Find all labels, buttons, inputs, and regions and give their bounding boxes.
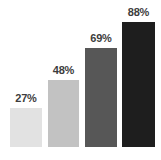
bar-rect-3[interactable]	[85, 48, 117, 147]
bar-column-3[interactable]: 69%	[85, 48, 117, 147]
bar-column-4[interactable]: 88%	[122, 22, 155, 147]
bar-rect-4[interactable]	[122, 22, 155, 147]
plot-area: 27% 48% 69% 88%	[0, 0, 161, 160]
bar-value-label-3: 69%	[90, 33, 111, 44]
bar-column-1[interactable]: 27%	[10, 108, 42, 147]
bar-rect-1[interactable]	[10, 108, 42, 147]
bar-rect-2[interactable]	[48, 80, 79, 147]
bar-column-2[interactable]: 48%	[48, 80, 79, 147]
bar-chart: 27% 48% 69% 88%	[0, 0, 161, 160]
category-axis	[0, 147, 161, 160]
bar-value-label-1: 27%	[15, 93, 36, 104]
bar-value-label-2: 48%	[53, 65, 74, 76]
bar-value-label-4: 88%	[128, 7, 149, 18]
